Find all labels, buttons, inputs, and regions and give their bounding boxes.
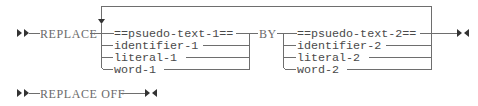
end-of-statement-icon — [457, 29, 469, 37]
operand-word-1: word-1 — [114, 63, 156, 77]
start-of-statement-icon — [17, 89, 29, 97]
keyword-by: BY — [259, 27, 277, 41]
keyword-replace: REPLACE — [40, 27, 98, 41]
end-of-statement-icon — [145, 89, 157, 97]
replace-off-statement: REPLACE OFF — [17, 87, 157, 101]
operand-word-2: word-2 — [297, 63, 339, 77]
replace-statement: REPLACE ==psuedo-text-1== identifier-1 l… — [17, 7, 469, 78]
syntax-diagram: REPLACE ==psuedo-text-1== identifier-1 l… — [0, 0, 478, 106]
keyword-replace-off: REPLACE OFF — [40, 87, 125, 101]
start-of-statement-icon — [17, 29, 29, 37]
